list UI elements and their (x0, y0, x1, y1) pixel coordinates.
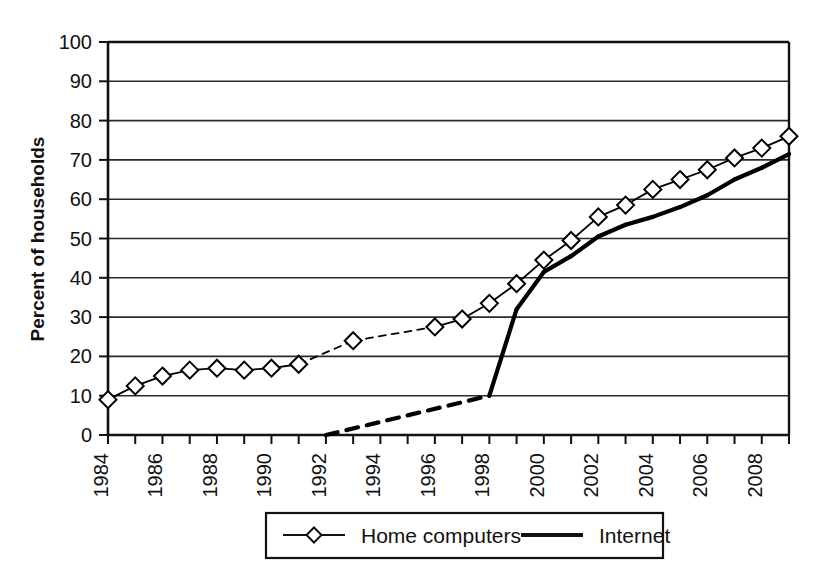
x-tick-label: 1998 (471, 453, 493, 498)
x-tick-label: 1990 (253, 453, 275, 498)
x-tick-label: 1994 (362, 453, 384, 498)
y-axis-title: Percent of households (27, 137, 48, 342)
y-tick-label: 60 (70, 188, 92, 210)
chart-page: 0102030405060708090100 19841986198819901… (0, 0, 819, 575)
x-tick-label: 2004 (635, 453, 657, 498)
y-tick-label: 50 (70, 228, 92, 250)
x-tick-label: 2000 (526, 453, 548, 498)
x-tick-label: 1988 (199, 453, 221, 498)
x-tick-label: 2006 (689, 453, 711, 498)
x-tick-label: 1996 (417, 453, 439, 498)
x-tick-label: 2008 (744, 453, 766, 498)
legend-label-home-computers: Home computers (361, 524, 521, 547)
y-tick-label: 70 (70, 149, 92, 171)
line-chart: 0102030405060708090100 19841986198819901… (0, 0, 819, 575)
chart-legend: Home computers Internet (266, 513, 670, 558)
y-tick-label: 80 (70, 110, 92, 132)
y-tick-label: 0 (81, 424, 92, 446)
y-tick-label: 10 (70, 385, 92, 407)
x-tick-label: 2002 (580, 453, 602, 498)
x-tick-label: 1984 (90, 453, 112, 498)
x-tick-label: 1992 (308, 453, 330, 498)
x-tick-label: 1986 (144, 453, 166, 498)
y-tick-label: 30 (70, 306, 92, 328)
y-tick-label: 40 (70, 267, 92, 289)
legend-label-internet: Internet (599, 524, 670, 547)
y-tick-label: 90 (70, 70, 92, 92)
y-tick-label: 100 (59, 31, 92, 53)
y-tick-label: 20 (70, 345, 92, 367)
